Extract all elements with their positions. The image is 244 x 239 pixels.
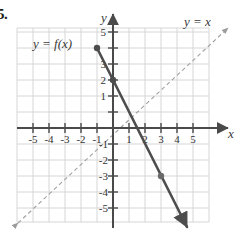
x-tick-label: -2 [76,133,85,145]
identity-label: y = x [182,14,211,29]
y-tick-label: -2 [99,154,108,166]
x-tick-label: 1 [126,133,132,145]
y-tick-label: 1 [101,90,107,102]
x-tick-label: 5 [190,133,196,145]
x-axis-label: x [227,126,234,141]
x-tick-label: -3 [60,133,70,145]
data-point [158,173,164,179]
coordinate-plane-svg: -5 -4 -3 -2 -1 1 2 3 4 5 5 3 2 1 -1 -2 -… [0,0,244,239]
x-tick-label: -4 [44,133,54,145]
function-label: y = f(x) [31,36,72,51]
data-point [94,45,100,51]
graph-figure: -5 -4 -3 -2 -1 1 2 3 4 5 5 3 2 1 -1 -2 -… [0,0,244,239]
y-axis-label: y [99,10,107,25]
x-tick-label: 3 [158,133,164,145]
y-tick-label: -1 [99,138,108,150]
y-tick-label: -3 [99,170,109,182]
y-tick-label: 2 [101,74,107,86]
y-tick-label: -5 [99,202,109,214]
data-point [110,77,116,83]
x-tick-label: 4 [174,133,180,145]
y-tick-label: 5 [101,26,107,38]
x-tick-label: -5 [28,133,38,145]
y-tick-label: -4 [99,186,109,198]
